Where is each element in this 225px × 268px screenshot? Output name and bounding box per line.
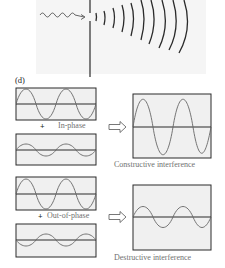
in-phase-wave-a (16, 88, 96, 120)
destructive-interference-label: Destructive interference (114, 254, 191, 262)
interference-diagram (0, 0, 225, 268)
wavefronts-icon (96, 0, 188, 53)
part-label: (d) (15, 76, 25, 85)
plus-operator: + (38, 213, 43, 221)
in-phase-label: In-phase (58, 122, 86, 130)
destructive-result (133, 185, 211, 250)
plus-operator: + (40, 123, 45, 131)
diffraction-figure (40, 0, 188, 77)
out-of-phase-wave-a (16, 177, 96, 210)
arrow-right-icon (109, 122, 126, 133)
incident-wave-icon (40, 13, 84, 17)
out-of-phase-wave-b (16, 224, 96, 257)
in-phase-wave-b (16, 134, 96, 165)
constructive-result (133, 94, 211, 158)
out-of-phase-label: Out-of-phase (47, 212, 89, 220)
arrow-right-icon (109, 212, 126, 223)
constructive-interference-label: Constructive interference (114, 161, 195, 169)
